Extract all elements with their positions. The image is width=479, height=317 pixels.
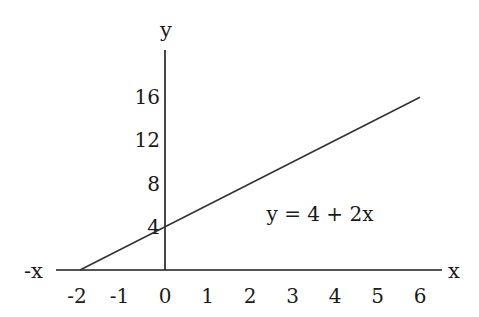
x-tick-label: 5	[371, 284, 384, 308]
y-tick-label: 8	[147, 172, 160, 196]
x-tick-label: -1	[110, 284, 129, 308]
series-line	[80, 97, 420, 270]
equation-annotation: y = 4 + 2x	[266, 202, 375, 226]
x-tick-label: 3	[286, 284, 299, 308]
y-tick-label: 12	[135, 128, 160, 152]
y-axis-label: y	[159, 18, 172, 42]
chart-canvas: y x -x -2-10123456 481216 y = 4 + 2x	[0, 0, 479, 317]
series-lines	[80, 97, 420, 270]
x-tick-label: 4	[329, 284, 342, 308]
x-tick-label: -2	[67, 284, 86, 308]
y-tick-labels: 481216	[135, 85, 160, 239]
negative-x-axis-label: -x	[24, 259, 43, 283]
y-tick-label: 16	[135, 85, 160, 109]
x-tick-labels: -2-10123456	[67, 284, 426, 308]
x-tick-label: 1	[201, 284, 214, 308]
x-axis-label: x	[448, 259, 460, 283]
x-tick-label: 6	[414, 284, 427, 308]
x-tick-label: 0	[159, 284, 172, 308]
x-tick-label: 2	[244, 284, 257, 308]
